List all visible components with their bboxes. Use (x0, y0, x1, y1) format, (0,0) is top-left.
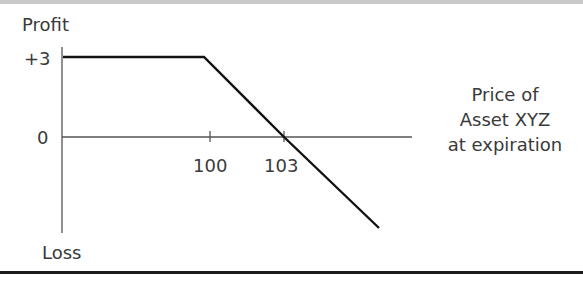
x-tick-label-100: 100 (193, 155, 227, 177)
x-axis-label-line-1: Price of (430, 82, 580, 107)
x-axis-label-line-3: at expiration (430, 132, 580, 157)
y-axis-label-profit: Profit (22, 14, 69, 36)
x-axis-label-line-2: Asset XYZ (430, 107, 580, 132)
y-tick-label-zero: 0 (37, 127, 48, 149)
x-tick-label-103: 103 (264, 155, 298, 177)
y-tick-label-plus3: +3 (24, 48, 51, 70)
x-axis-label: Price of Asset XYZ at expiration (430, 82, 580, 157)
payoff-line (63, 57, 379, 228)
bottom-border (0, 271, 583, 274)
y-axis-label-loss: Loss (42, 242, 81, 264)
